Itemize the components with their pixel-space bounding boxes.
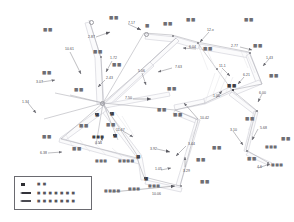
network-node-dot (100, 56, 102, 58)
measurement-label: 7.63 (175, 66, 182, 70)
annotation-label: ■■ (163, 22, 173, 27)
annotation-label: ■■ (79, 124, 89, 129)
annotation-label: ■ (145, 24, 150, 29)
measurement-label: 1.72 (110, 57, 117, 61)
annotation-label: ■■ (269, 74, 279, 79)
measurement-label: 0.54 (95, 142, 102, 146)
annotation-label: ■■ (212, 146, 222, 151)
annotation-label: ■■ (196, 158, 206, 163)
network-node-dot (172, 35, 174, 37)
measurement-label: 2.77 (231, 45, 238, 49)
network-node-dot (267, 162, 269, 164)
diagram-canvas: 7.172.8710.611.7212.x6.042.771.435.067.6… (0, 0, 294, 222)
annotation-label: ■■ (200, 180, 210, 185)
legend-label: ■ ■ (37, 182, 47, 186)
legend-row: ■ ■ (19, 180, 87, 189)
measurement-label: 5.68 (260, 127, 267, 131)
network-node-dot (246, 150, 248, 152)
annotation-label: ■■ (227, 84, 237, 89)
legend-label: ■ ■ ■ ■ ■ ■ ■ (37, 199, 75, 203)
annotation-label: ■■ (167, 87, 177, 92)
measurement-label: 2.43 (106, 77, 113, 81)
annotation-label: ■■■■ (104, 189, 121, 193)
measurement-label: 3.29 (183, 170, 190, 174)
point-marker-icon (19, 183, 37, 186)
measurement-label: 3.07 (36, 81, 43, 85)
annotation-label: ■■ (253, 44, 263, 49)
legend-label: ■ ■ ■ ■ ■ ■ ■ (37, 191, 75, 195)
annotation-label: ■■■ (148, 184, 161, 188)
annotation-label: ■■ (186, 18, 196, 23)
network-node-sq (144, 177, 146, 179)
measurement-label: 1.00 (213, 95, 220, 99)
measurement-label: 11.67 (116, 129, 125, 133)
measurement-label: 6.04 (189, 46, 196, 50)
annotation-label: ■■ (93, 50, 103, 55)
network-node-sq (95, 113, 97, 115)
annotation-label: ■■ (106, 123, 116, 128)
legend-box: ■ ■ ■ ■ ■ ■ ■ ■ ■ ■ ■ ■ ■ ■ ■ ■ (14, 176, 92, 210)
measurement-label: 12.x (207, 29, 214, 33)
network-node-sq (110, 112, 112, 114)
annotation-label: ■■ (203, 47, 213, 52)
network-node-sq (232, 89, 234, 91)
measurement-label: 10.42 (200, 117, 209, 121)
network-node-sq (137, 155, 139, 157)
detail-hatching (66, 42, 256, 157)
measurement-label: 1.43 (266, 57, 273, 61)
measurement-label: 6.38 (40, 152, 47, 156)
annotation-label: ■■■ (92, 135, 105, 139)
annotation-label: ■■ (245, 117, 255, 122)
arrow-bar-dark-icon (19, 192, 37, 194)
legend-row: ■ ■ ■ ■ ■ ■ ■ (19, 189, 87, 198)
annotation-label: ■■ (43, 28, 53, 33)
annotation-label: ■■■■ (118, 159, 135, 163)
annotation-label: ■■ (244, 18, 254, 23)
annotation-label: ■■■ (95, 159, 108, 163)
network-node-dot (180, 185, 182, 187)
annotation-label: ■■ (281, 137, 291, 142)
network-node-dot (197, 42, 199, 44)
annotation-label: ■■ (112, 63, 122, 68)
measurement-label: 7.17 (128, 22, 135, 26)
annotation-label: ■■■ (271, 163, 284, 167)
annotation-label: ■■ (72, 147, 82, 152)
measurement-label: 6.00 (259, 92, 266, 96)
network-node-dot (216, 68, 218, 70)
measurement-label: 7.50 (125, 97, 132, 101)
annotation-label: ■■ (42, 71, 52, 76)
measurement-label: 10.61 (65, 48, 74, 52)
network-node-dot (256, 110, 258, 112)
measurement-label: 2.87 (88, 36, 95, 40)
measurement-label: 5.06 (138, 70, 145, 74)
measurement-label: 3.10 (230, 129, 237, 133)
annotation-label: ■■ (42, 135, 52, 140)
annotation-label: ■■■ (128, 187, 141, 191)
annotation-label: ■■ (247, 157, 257, 162)
measurement-label: 3.44 (188, 143, 195, 147)
network-node-dot (249, 52, 251, 54)
annotation-label: ■■ (157, 108, 167, 113)
measurement-label: 10.06 (152, 193, 161, 197)
measurement-label: 1.34 (22, 101, 29, 105)
legend-row: ■ ■ ■ ■ ■ ■ ■ (19, 197, 87, 206)
annotation-label: ■■ (74, 88, 84, 93)
measurement-label: 6.21 (243, 74, 250, 78)
measurement-label: 11.1 (219, 65, 226, 69)
annotation-label: ■■ (109, 16, 119, 21)
measurement-label: 4.6 (257, 166, 262, 170)
annotation-label: ■■ (173, 113, 183, 118)
network-node-sq (113, 134, 115, 136)
arrow-bar-mid-icon (19, 200, 37, 202)
measurement-label: 3.92 (150, 148, 157, 152)
annotation-label: ■■■ (265, 145, 278, 149)
measurement-label: 1.05 (155, 168, 162, 172)
